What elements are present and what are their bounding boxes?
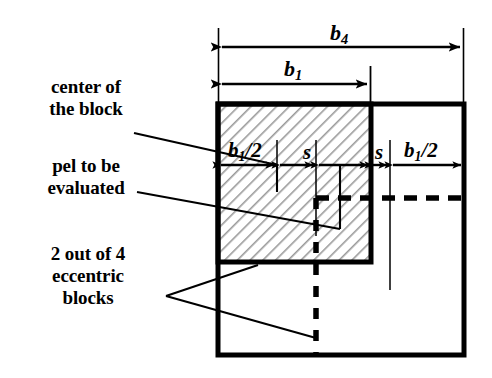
dimension-label-b1: b1 — [284, 58, 302, 83]
dimension-symbol-b1-half-right: b — [404, 138, 415, 162]
dimension-symbol-b1-half-left: b — [228, 138, 239, 162]
dimension-suffix-b1-half-right: /2 — [421, 138, 437, 162]
annotation-eccentric-blocks: 2 out of 4 eccentric blocks — [8, 243, 168, 309]
hatched-block-fill — [219, 105, 370, 261]
dimension-subscript-b1: 1 — [295, 67, 302, 83]
dimension-label-s-right: s — [375, 142, 383, 163]
dimension-label-b4: b4 — [330, 22, 348, 47]
dimension-label-b1-half-left: b1/2 — [228, 140, 262, 164]
dimension-symbol-b4: b — [330, 20, 341, 45]
annotation-pel-to-be-evaluated: pel to be evaluated — [10, 155, 162, 199]
leader-eccentric-lower — [166, 296, 316, 338]
leader-eccentric-upper — [166, 265, 258, 296]
dimension-label-b1-half-right: b1/2 — [404, 140, 438, 164]
diagram-canvas: center of the block pel to be evaluated … — [0, 0, 492, 378]
dimension-suffix-b1-half-left: /2 — [245, 138, 261, 162]
dimension-label-s-left: s — [303, 142, 311, 163]
dimension-symbol-b1: b — [284, 56, 295, 81]
dimension-subscript-b4: 4 — [341, 31, 348, 47]
annotation-center-of-block: center of the block — [10, 76, 162, 120]
